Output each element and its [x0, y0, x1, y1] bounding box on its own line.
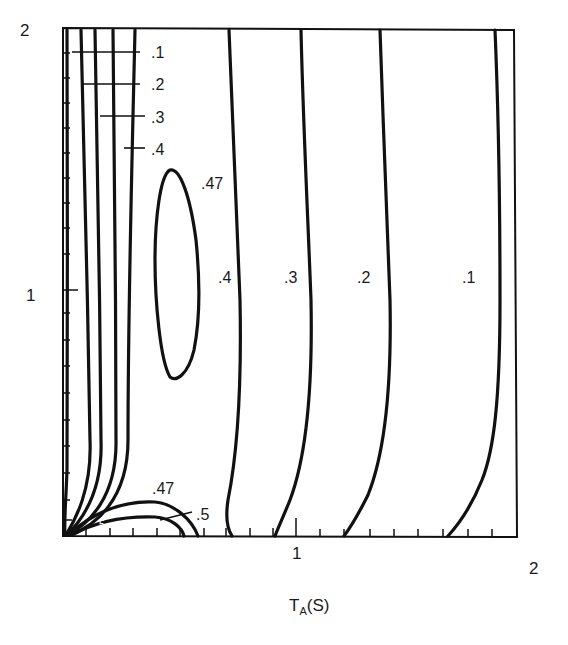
contour-label-ellipse-0.47: .47 — [201, 175, 223, 192]
x-tick-label-2: 2 — [529, 559, 538, 578]
x-axis-title: TA(S) — [289, 596, 329, 617]
contour-label-left-0.3: .3 — [151, 109, 164, 126]
x-axis-ticks — [86, 518, 492, 537]
contour-label-left-0.4: .4 — [151, 141, 164, 158]
y-tick-label-1: 1 — [26, 286, 35, 305]
contour-line-0.3 — [68, 30, 116, 535]
contour-label-lobe-0.5: .5 — [196, 506, 209, 523]
contour-label-left-0.2: .2 — [151, 76, 164, 93]
contour-line-0.1-edge — [65, 30, 68, 535]
left-contour-cluster — [65, 30, 135, 535]
contour-label-left-0.1: .1 — [151, 44, 164, 61]
contour-label-lobe-small: 5 — [99, 519, 105, 530]
y-axis-ticks — [63, 53, 78, 520]
y-tick-label-2: 2 — [20, 21, 29, 40]
contour-line-0.4 — [70, 30, 135, 535]
contour-label-mid-0.1: .1 — [462, 269, 475, 286]
contour-chart: .1 .2 .3 .4 .47 .4 .3 .2 .1 .47 .5 5 2 1… — [0, 0, 568, 645]
contour-line-0.1 — [66, 30, 90, 535]
contour-label-mid-0.3: .3 — [284, 269, 297, 286]
x-tick-label-1: 1 — [292, 544, 301, 563]
contour-label-mid-0.2: .2 — [357, 269, 370, 286]
contour-ellipse-0.47 — [155, 170, 199, 379]
contour-label-lobe-0.47: .47 — [152, 480, 174, 497]
contour-label-mid-0.4: .4 — [218, 269, 231, 286]
